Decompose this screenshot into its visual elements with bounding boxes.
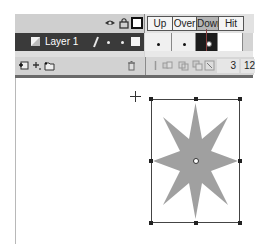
outline-square[interactable] <box>131 37 140 46</box>
handle-middle-left[interactable] <box>149 159 153 163</box>
edit-multiple-frames-icon[interactable] <box>192 60 203 71</box>
insert-folder-icon[interactable] <box>44 60 55 71</box>
handle-bottom-center[interactable] <box>194 221 198 225</box>
frame-label-hit[interactable]: Hit <box>218 16 244 31</box>
registration-point-icon <box>130 91 141 102</box>
outline-icon[interactable] <box>131 17 143 29</box>
frame-over[interactable] <box>172 33 196 51</box>
handle-bottom-right[interactable] <box>238 221 242 225</box>
layer-icon <box>30 36 41 47</box>
frame-down-selected[interactable] <box>196 33 218 51</box>
handle-top-left[interactable] <box>149 97 153 101</box>
frame-label-over[interactable]: Over <box>172 16 197 31</box>
onion-skin-icon[interactable] <box>162 60 173 71</box>
handle-middle-right[interactable] <box>238 159 242 163</box>
pencil-icon <box>92 36 100 48</box>
insert-layer-icon[interactable] <box>18 60 29 71</box>
lock-dot[interactable] <box>121 41 124 44</box>
lock-icon[interactable] <box>118 17 130 29</box>
frame-up[interactable] <box>145 33 172 51</box>
transform-point[interactable] <box>193 158 199 164</box>
frame-rate-field[interactable]: 12 <box>241 59 255 73</box>
handle-top-right[interactable] <box>238 97 242 101</box>
current-frame-field: 3 <box>217 59 239 73</box>
handle-top-center[interactable] <box>194 97 198 101</box>
visibility-dot[interactable] <box>107 41 110 44</box>
delete-layer-icon[interactable] <box>126 60 137 71</box>
frame-label-up[interactable]: Up <box>147 16 173 31</box>
onion-skin-outlines-icon[interactable] <box>178 60 189 71</box>
layer-name[interactable]: Layer 1 <box>45 35 78 49</box>
add-motion-guide-icon[interactable] <box>31 60 42 71</box>
panel-border <box>15 75 253 78</box>
center-frame-icon[interactable] <box>150 60 161 71</box>
frame-label-down[interactable]: Down <box>196 16 219 31</box>
eye-icon[interactable] <box>104 17 116 29</box>
frame-hit[interactable] <box>218 33 243 51</box>
stage-edge <box>15 78 16 244</box>
handle-bottom-left[interactable] <box>149 221 153 225</box>
modify-onion-markers-icon[interactable] <box>204 60 215 71</box>
